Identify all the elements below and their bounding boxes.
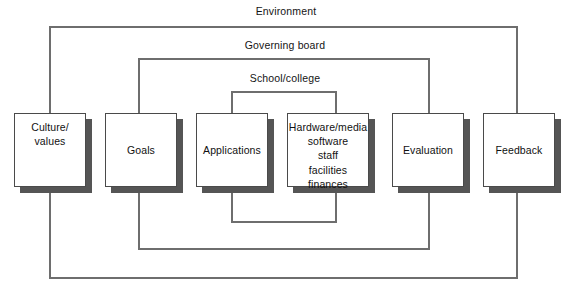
ring-label-governing-board: Governing board <box>245 39 325 51</box>
node-evaluation[interactable]: Evaluation <box>392 113 464 187</box>
node-face-culture-values: Culture/ values <box>14 113 86 187</box>
node-culture-values[interactable]: Culture/ values <box>14 113 86 187</box>
node-face-applications: Applications <box>196 113 268 187</box>
node-label-hardware-media: Hardware/media software staff facilities… <box>286 120 370 191</box>
node-face-hardware-media: Hardware/media software staff facilities… <box>287 113 369 187</box>
node-label-applications: Applications <box>200 143 264 157</box>
node-applications[interactable]: Applications <box>196 113 268 187</box>
node-goals[interactable]: Goals <box>105 113 177 187</box>
ring-label-environment: Environment <box>256 5 317 17</box>
node-label-culture-values: Culture/ values <box>28 120 72 148</box>
node-label-goals: Goals <box>124 143 158 157</box>
ring-label-school-college: School/college <box>250 72 320 84</box>
node-face-feedback: Feedback <box>483 113 555 187</box>
node-face-goals: Goals <box>105 113 177 187</box>
node-feedback[interactable]: Feedback <box>483 113 555 187</box>
node-label-evaluation: Evaluation <box>400 143 456 157</box>
diagram-canvas: EnvironmentGoverning boardSchool/college… <box>0 0 573 296</box>
node-hardware-media[interactable]: Hardware/media software staff facilities… <box>287 113 369 187</box>
node-label-feedback: Feedback <box>493 143 546 157</box>
node-face-evaluation: Evaluation <box>392 113 464 187</box>
